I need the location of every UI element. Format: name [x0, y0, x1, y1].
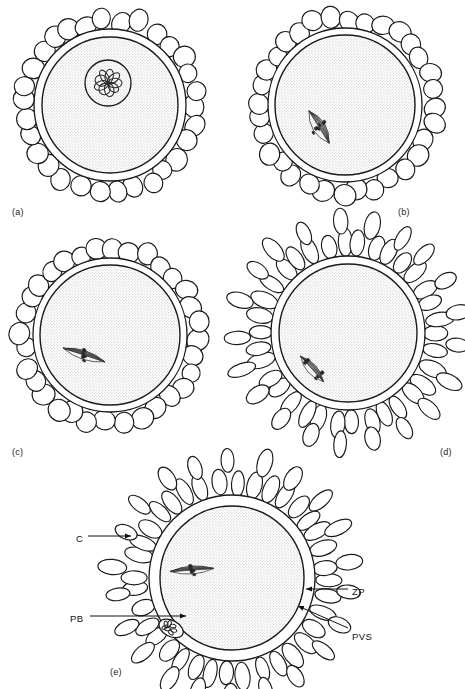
panel-label-a: (a): [12, 207, 24, 217]
figure-canvas: [0, 0, 465, 689]
ooplasm: [42, 37, 178, 173]
annotation-label-pb: PB: [70, 613, 83, 624]
panel-e: [97, 447, 363, 689]
panel-b: [244, 5, 449, 210]
annotation-label-zp: ZP: [352, 586, 365, 597]
panel-a: [10, 7, 210, 206]
panel-c: [6, 234, 214, 436]
oocyte-maturation-figure: (a)(b)(c)(d)(e) CZPPBPVS: [0, 0, 465, 689]
panel-label-c: (c): [12, 447, 23, 457]
ooplasm: [279, 264, 417, 402]
annotation-label-c: C: [76, 533, 83, 544]
panel-label-b: (b): [398, 207, 410, 217]
panel-label-e: (e): [110, 667, 122, 677]
panel-d: [224, 208, 465, 458]
ooplasm: [275, 35, 415, 175]
annotation-label-pvs: PVS: [352, 631, 372, 642]
ooplasm: [40, 265, 180, 405]
panel-label-d: (d): [440, 447, 452, 457]
